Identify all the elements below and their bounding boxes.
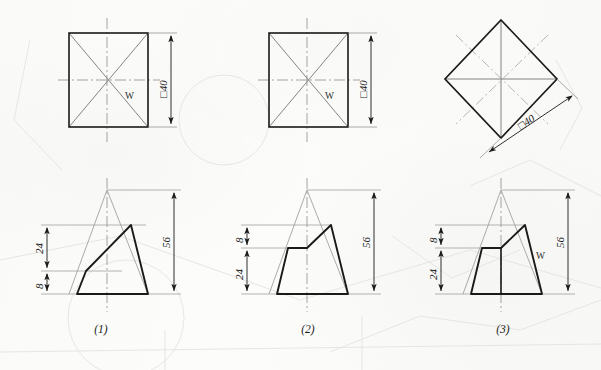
front-view-3: W 56 8 24 (3) [427,178,575,336]
front-view-3-surface-label: W [536,251,545,261]
front-view-2-dim8-label: 8 [233,237,245,243]
top-view-2-surface-label: W [325,91,334,101]
front-view-2-dim56-label: 56 [360,237,372,249]
drawing-sheet: W □40 W [0,0,601,370]
front-view-1: 56 24 8 (1) [33,178,181,336]
front-view-3-dim8-label: 8 [427,237,439,243]
front-view-3-caption: (3) [496,323,510,336]
top-view-1-dimension-label: □40 [157,80,169,98]
front-view-3-dim56-label: 56 [554,237,566,249]
front-view-2: 56 8 24 (2) [233,178,381,336]
front-view-2-object-outline [277,225,348,294]
technical-drawing-canvas: W □40 W [0,0,601,370]
top-view-3: □40 [445,20,578,158]
front-view-1-object-outline [77,225,148,294]
top-view-3-dimension-label: □40 [515,112,537,132]
front-view-1-dim8-label: 8 [33,283,45,289]
front-view-3-dim24-label: 24 [427,269,439,281]
top-view-2-dim-extension-lines [348,33,377,127]
top-view-3-diagonals [456,35,548,124]
front-view-2-caption: (2) [301,323,315,336]
front-view-2-dim24-label: 24 [233,269,245,281]
top-view-2-dimension-label: □40 [357,80,369,98]
top-view-1-dim-extension-lines [148,33,177,127]
top-view-1: W □40 [58,18,177,142]
front-view-1-dim56-label: 56 [160,237,172,249]
front-view-1-caption: (1) [94,323,108,336]
top-view-1-surface-label: W [125,91,134,101]
top-view-2: W □40 [258,18,377,142]
front-view-1-dim24-label: 24 [33,243,45,255]
front-view-3-object-outline [471,225,542,294]
